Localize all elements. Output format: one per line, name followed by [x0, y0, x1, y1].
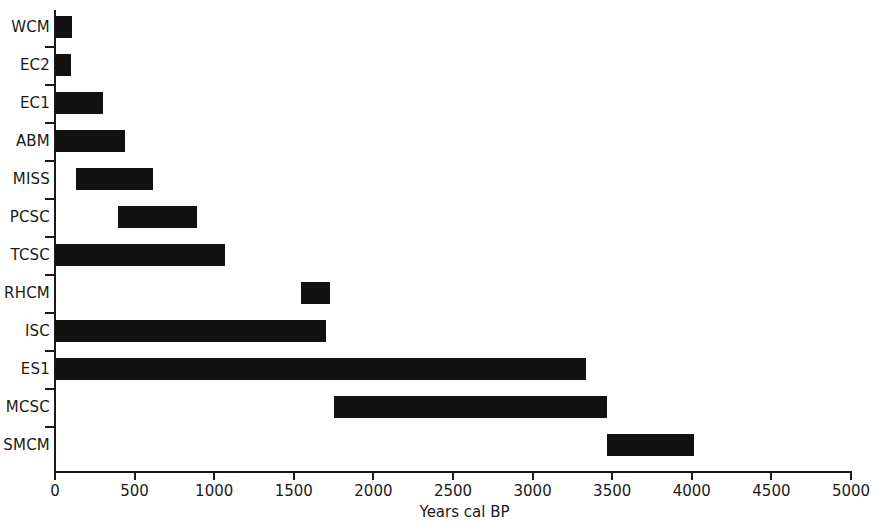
x-axis-tick-label: 4000	[657, 482, 727, 500]
x-axis-tick	[213, 471, 215, 480]
x-axis-tick-label: 0	[20, 482, 90, 500]
x-axis-tick-label: 3000	[498, 482, 568, 500]
category-label-rhcm: RHCM	[2, 282, 50, 304]
bar	[55, 16, 72, 38]
bar	[55, 244, 225, 266]
category-label-tcsc: TCSC	[2, 244, 50, 266]
bar	[55, 358, 586, 380]
y-axis-tick	[45, 388, 55, 390]
x-axis-tick-label: 1000	[179, 482, 249, 500]
x-axis-tick	[293, 471, 295, 480]
category-label-ec2: EC2	[2, 54, 50, 76]
x-axis-tick-label: 5000	[816, 482, 874, 500]
bar	[334, 396, 607, 418]
y-axis-tick	[45, 160, 55, 162]
bar	[607, 434, 694, 456]
y-axis-line	[54, 10, 56, 473]
category-label-ec1: EC1	[2, 92, 50, 114]
x-axis-tick-label: 4500	[736, 482, 806, 500]
x-axis-tick	[770, 471, 772, 480]
bar	[55, 92, 103, 114]
bar	[55, 130, 125, 152]
x-axis-title-text: Years cal BP	[419, 503, 509, 521]
x-axis-tick	[850, 471, 852, 480]
bar	[118, 206, 197, 228]
bar	[55, 54, 71, 76]
x-axis-tick	[611, 471, 613, 480]
bar	[55, 320, 326, 342]
x-axis-tick	[54, 471, 56, 480]
bar	[301, 282, 330, 304]
x-axis-tick-label: 2000	[338, 482, 408, 500]
category-label-isc: ISC	[2, 320, 50, 342]
x-axis-tick	[691, 471, 693, 480]
x-axis-tick	[372, 471, 374, 480]
x-axis-tick	[532, 471, 534, 480]
x-axis-tick	[134, 471, 136, 480]
x-axis-tick-label: 3500	[577, 482, 647, 500]
y-axis-tick	[45, 236, 55, 238]
x-axis-tick-label: 500	[100, 482, 170, 500]
y-axis-tick	[45, 274, 55, 276]
y-axis-tick	[45, 426, 55, 428]
x-axis-title: Years cal BP	[0, 503, 865, 521]
category-label-miss: MISS	[2, 168, 50, 190]
category-label-pcsc: PCSC	[2, 206, 50, 228]
category-label-abm: ABM	[2, 130, 50, 152]
x-axis-tick-label: 2500	[418, 482, 488, 500]
y-axis-tick	[45, 198, 55, 200]
x-axis-tick	[452, 471, 454, 480]
bar	[76, 168, 153, 190]
y-axis-tick	[45, 312, 55, 314]
category-label-wcm: WCM	[2, 16, 50, 38]
y-axis-tick	[45, 46, 55, 48]
category-label-es1: ES1	[2, 358, 50, 380]
category-label-mcsc: MCSC	[2, 396, 50, 418]
x-axis-tick-label: 1500	[259, 482, 329, 500]
y-axis-tick	[45, 122, 55, 124]
y-axis-tick	[45, 84, 55, 86]
category-label-smcm: SMCM	[2, 434, 50, 456]
y-axis-tick	[45, 350, 55, 352]
